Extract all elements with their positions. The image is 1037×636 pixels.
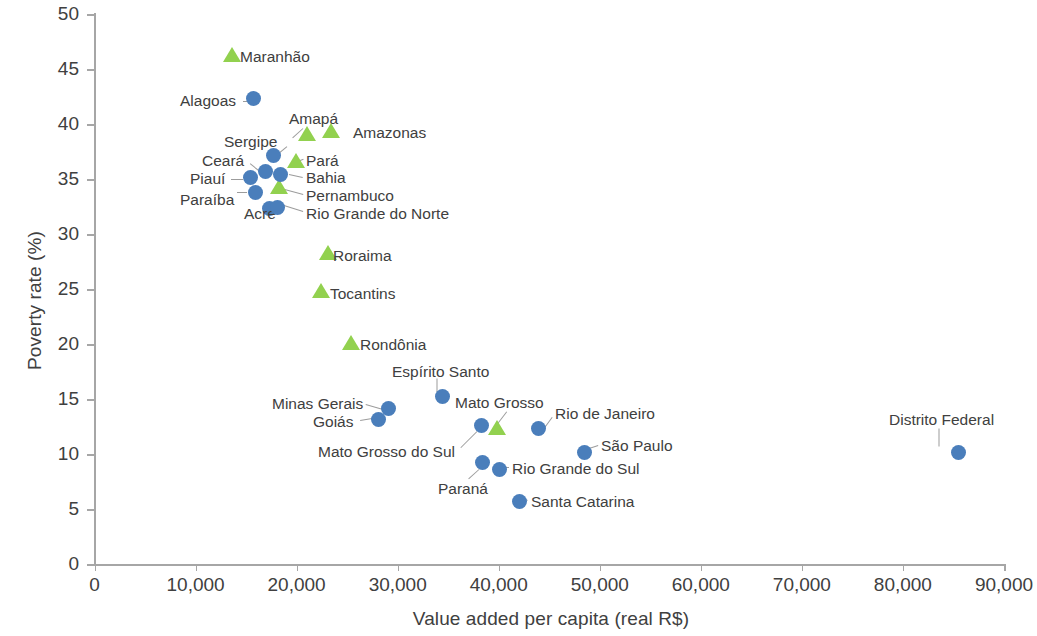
y-tick-mark <box>87 344 94 346</box>
data-point-circle[interactable] <box>435 389 450 404</box>
data-point-triangle[interactable] <box>298 126 316 141</box>
data-point-circle[interactable] <box>246 91 261 106</box>
x-axis-title: Value added per capita (real R$) <box>311 608 791 630</box>
y-tick-mark <box>87 179 94 181</box>
data-point-label: Mato Grosso do Sul <box>318 443 455 460</box>
data-point-label: Tocantins <box>330 285 395 302</box>
data-point-circle[interactable] <box>577 445 592 460</box>
y-tick-mark <box>87 564 94 566</box>
data-point-circle[interactable] <box>266 148 281 163</box>
data-point-label: Rio Grande do Norte <box>306 205 449 222</box>
data-point-label: Bahia <box>306 169 346 186</box>
y-tick-mark <box>87 14 94 16</box>
y-axis-line <box>94 13 96 565</box>
y-tick-mark <box>87 509 94 511</box>
y-tick-mark <box>87 124 94 126</box>
y-tick-label: 45 <box>19 59 79 78</box>
label-leader-line <box>469 469 480 479</box>
data-point-label: Goiás <box>313 413 354 430</box>
y-tick-label: 40 <box>19 114 79 133</box>
data-point-label: Paraná <box>438 480 488 497</box>
data-point-label: Sergipe <box>224 133 277 150</box>
y-tick-mark <box>87 69 94 71</box>
data-point-label: Mato Grosso <box>455 394 544 411</box>
label-leader-line <box>231 179 243 180</box>
data-point-circle[interactable] <box>243 170 258 185</box>
x-tick-mark <box>196 564 198 571</box>
data-point-label: Santa Catarina <box>531 493 634 510</box>
data-point-triangle[interactable] <box>287 153 305 168</box>
data-point-circle[interactable] <box>475 455 490 470</box>
y-axis-title: Poverty rate (%) <box>24 231 46 370</box>
data-point-label: Roraima <box>333 247 392 264</box>
label-leader-line <box>289 174 303 178</box>
data-point-label: Alagoas <box>180 92 236 109</box>
label-leader-line <box>284 205 303 212</box>
x-tick-label: 90,000 <box>944 575 1037 594</box>
label-leader-line <box>939 429 940 447</box>
y-tick-label: 10 <box>19 444 79 463</box>
label-leader-line <box>237 192 247 193</box>
y-tick-mark <box>87 399 94 401</box>
y-tick-label: 15 <box>19 389 79 408</box>
label-leader-line <box>461 431 478 448</box>
data-point-circle[interactable] <box>258 164 273 179</box>
x-tick-mark <box>701 564 703 571</box>
data-point-circle[interactable] <box>951 445 966 460</box>
data-point-label: Piauí <box>190 170 225 187</box>
y-tick-mark <box>87 454 94 456</box>
x-tick-mark <box>297 564 299 571</box>
y-tick-label: 35 <box>19 169 79 188</box>
data-point-triangle[interactable] <box>223 47 241 62</box>
data-point-triangle[interactable] <box>322 123 340 138</box>
x-tick-mark <box>802 564 804 571</box>
data-point-label: Amazonas <box>353 124 426 141</box>
x-tick-mark <box>499 564 501 571</box>
data-point-circle[interactable] <box>270 200 285 215</box>
data-point-circle[interactable] <box>512 494 527 509</box>
data-point-label: Pernambuco <box>306 187 394 204</box>
y-tick-label: 50 <box>19 4 79 23</box>
data-point-circle[interactable] <box>371 412 386 427</box>
data-point-label: Paraíba <box>180 191 234 208</box>
data-point-label: Rondônia <box>360 336 426 353</box>
data-point-label: Rio de Janeiro <box>555 405 655 422</box>
data-point-circle[interactable] <box>531 421 546 436</box>
data-point-circle[interactable] <box>492 462 507 477</box>
x-tick-mark <box>95 564 97 571</box>
data-point-label: Rio Grande do Sul <box>512 460 640 477</box>
data-point-circle[interactable] <box>248 185 263 200</box>
data-point-triangle[interactable] <box>312 283 330 298</box>
data-point-circle[interactable] <box>474 418 489 433</box>
data-point-label: Maranhão <box>240 48 310 65</box>
data-point-label: Pará <box>306 152 339 169</box>
y-tick-label: 5 <box>19 499 79 518</box>
data-point-label: Espírito Santo <box>392 363 489 380</box>
data-point-label: Distrito Federal <box>889 411 994 428</box>
data-point-label: São Paulo <box>601 437 673 454</box>
x-tick-mark <box>903 564 905 571</box>
data-point-label: Ceará <box>202 152 244 169</box>
data-point-circle[interactable] <box>273 167 288 182</box>
y-tick-mark <box>87 289 94 291</box>
x-tick-mark <box>1004 564 1006 571</box>
data-point-label: Minas Gerais <box>272 395 363 412</box>
y-tick-label: 0 <box>19 554 79 573</box>
data-point-triangle[interactable] <box>342 335 360 350</box>
x-axis-line <box>94 564 1006 566</box>
x-tick-mark <box>600 564 602 571</box>
data-point-triangle[interactable] <box>488 420 506 435</box>
x-tick-mark <box>398 564 400 571</box>
y-tick-mark <box>87 234 94 236</box>
